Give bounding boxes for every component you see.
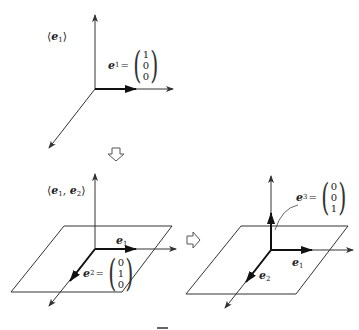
e1-definition: e1 = ( 1 0 0 )	[108, 46, 162, 84]
vec-sub: 2	[90, 269, 94, 277]
vec-name: e	[83, 267, 90, 280]
span-e1-label: ⟨e1⟩	[47, 31, 67, 44]
vec-sub: 1	[115, 61, 119, 69]
diagram-canvas	[0, 0, 359, 330]
vec-sub: 3	[303, 193, 307, 201]
vec-name: e	[70, 184, 77, 197]
vec-name: e	[259, 269, 266, 282]
hollow-right-arrow-icon	[187, 232, 200, 248]
column-vector: 0 1 0	[118, 257, 124, 290]
bracket-close: ⟩	[63, 30, 67, 43]
column-vector: 0 0 1	[331, 181, 337, 214]
vec-sub: 2	[266, 275, 270, 283]
vec-name: e	[292, 256, 299, 269]
right-paren: )	[150, 46, 158, 84]
left-paren: (	[321, 178, 329, 216]
right-paren: )	[338, 178, 346, 216]
equals-sign: =	[95, 268, 103, 279]
e2-label: e2	[259, 270, 270, 283]
vec-name: e	[296, 191, 303, 204]
plane-e1-e2	[186, 226, 348, 294]
e2-definition: e2 = ( 0 1 0 )	[83, 254, 137, 292]
equals-sign: =	[308, 192, 316, 203]
e1-label: e1	[116, 235, 127, 248]
component: 1	[331, 203, 337, 214]
component: 0	[118, 279, 124, 290]
column-vector: 1 0 0	[143, 49, 149, 82]
bracket-close: ⟩	[81, 184, 85, 197]
vec-name: e	[116, 234, 123, 247]
right-paren: )	[125, 254, 133, 292]
hollow-down-arrow-icon	[108, 148, 124, 161]
e3-definition: e3 = ( 0 0 1 )	[296, 178, 350, 216]
component: 0	[331, 192, 337, 203]
vec-name: e	[108, 59, 115, 72]
separator: ,	[63, 184, 67, 197]
component: 1	[118, 268, 124, 279]
component: 0	[118, 257, 124, 268]
equals-sign: =	[120, 60, 128, 71]
vec-sub: 1	[299, 262, 303, 270]
y-axis	[49, 89, 95, 148]
component: 0	[143, 71, 149, 82]
component: 0	[143, 60, 149, 71]
span-e1-e2-label: ⟨e1, e2⟩	[47, 185, 86, 198]
left-paren: (	[108, 254, 116, 292]
vec-sub: 1	[123, 240, 127, 248]
component: 1	[143, 49, 149, 60]
component: 0	[331, 181, 337, 192]
e1-label: e1	[292, 257, 303, 270]
left-paren: (	[133, 46, 141, 84]
